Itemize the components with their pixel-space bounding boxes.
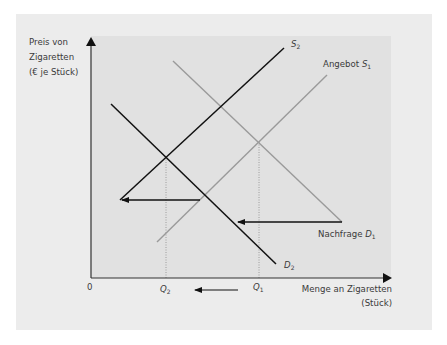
q2-tick-label: Q2 — [160, 284, 171, 298]
y-axis-label-line1: Preis von — [29, 37, 68, 49]
q1-tick-label: Q1 — [253, 282, 264, 296]
y-axis-label-line3: (€ je Stück) — [29, 67, 78, 79]
s1-label: Angebot S1 — [323, 59, 371, 73]
d2-label: D2 — [284, 260, 294, 274]
s2-label: S2 — [291, 39, 300, 53]
origin-label: 0 — [87, 282, 92, 294]
x-axis-label-line2: (Stück) — [361, 298, 392, 310]
y-axis-label-line2: Zigaretten — [29, 52, 74, 64]
d1-label: Nachfrage D1 — [318, 229, 376, 243]
x-axis-label-line1: Menge an Zigaretten — [302, 284, 392, 296]
